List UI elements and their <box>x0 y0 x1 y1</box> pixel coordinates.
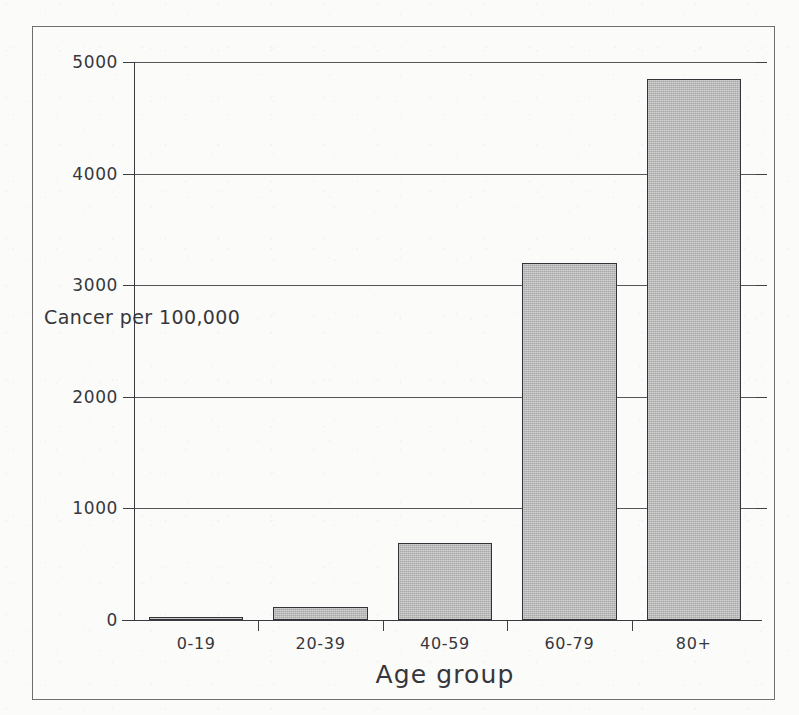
y-axis-tick-mark-right <box>756 508 767 509</box>
x-axis-tick-mark <box>258 620 259 631</box>
y-axis-tick-mark <box>123 62 134 63</box>
y-axis-tick-mark-right <box>756 174 767 175</box>
y-axis-tick-mark-right <box>756 285 767 286</box>
bars-group <box>134 62 756 620</box>
x-axis-tick-label: 0-19 <box>177 636 216 652</box>
plot-area: 010002000300040005000 0-1920-3940-5960-7… <box>134 62 756 620</box>
chart-screenshot: Cancer per 100,000 010002000300040005000… <box>0 0 799 715</box>
x-axis-tick-mark <box>507 620 508 631</box>
y-axis-tick-label: 5000 <box>72 54 118 71</box>
y-axis-tick-label: 1000 <box>72 500 118 517</box>
x-axis-tick-label: 60-79 <box>544 636 594 652</box>
y-axis-tick-label: 4000 <box>72 165 118 182</box>
y-axis-tick-mark <box>123 174 134 175</box>
bar-80+ <box>647 79 742 620</box>
x-axis-tick-label: 20-39 <box>296 636 346 652</box>
x-axis-line <box>122 620 762 621</box>
y-axis-tick-label: 3000 <box>72 277 118 294</box>
y-axis-title: Cancer per 100,000 <box>44 307 240 329</box>
y-axis-tick-mark <box>123 285 134 286</box>
y-axis-tick-mark <box>123 397 134 398</box>
bar-20-39 <box>273 607 368 620</box>
bar-0-19 <box>149 617 244 620</box>
x-axis-tick-label: 80+ <box>676 636 712 652</box>
y-axis-tick-mark-right <box>756 62 767 63</box>
bar-60-79 <box>522 263 617 620</box>
y-axis-tick-label: 2000 <box>72 388 118 405</box>
x-axis-tick-mark <box>383 620 384 631</box>
bar-40-59 <box>398 543 493 620</box>
x-axis-title: Age group <box>134 660 756 689</box>
y-axis-tick-mark <box>123 508 134 509</box>
x-axis-tick-label: 40-59 <box>420 636 470 652</box>
x-axis-tick-mark <box>632 620 633 631</box>
y-axis-tick-mark-right <box>756 397 767 398</box>
y-axis-tick-label: 0 <box>107 612 118 629</box>
